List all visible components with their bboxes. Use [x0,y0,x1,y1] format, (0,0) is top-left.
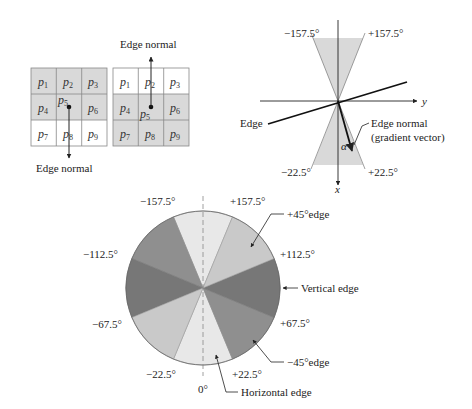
wheel-label-pos112: +112.5° [280,248,315,260]
x-axis-label: x [334,183,340,195]
wheel-label-pos157: +157.5° [230,195,265,207]
edge-direction-wheel: −157.5° +157.5° −112.5° +112.5° −67.5° +… [83,195,359,398]
cell-p2: p2 [144,75,155,90]
alpha-label: α [341,140,347,152]
horizontal-edge-label: Horizontal edge [241,386,312,398]
edge-normal-label-right: Edge normal [120,38,177,50]
minus45-edge-label: −45°edge [287,356,329,368]
cell-p3: p3 [169,75,180,90]
wheel-label-zero: 0° [198,383,208,395]
gradient-axes-diagram: −157.5° +157.5° −22.5° +22.5° x y Edge α… [240,20,445,195]
wheel-label-neg157: −157.5° [140,195,175,207]
edge-label: Edge [240,117,263,129]
edge-direction-figure: p1 p2 p3 p4 p5 p6 p7 p8 p9 Edge normal p… [0,0,472,409]
angle-label-pos22: +22.5° [368,166,398,178]
edge-normal-label: Edge normal [371,117,428,129]
angle-label-neg157: −157.5° [284,27,319,39]
angle-label-pos157: +157.5° [368,27,403,39]
vertical-edge-label: Vertical edge [301,282,359,294]
minus45-callout-arrow [253,340,284,362]
wheel-label-pos22: +22.5° [232,368,262,380]
right-neighborhood-grid: p1 p2 p3 p4 p5 p6 p7 p8 p9 Edge normal [113,38,189,146]
wheel-label-neg67: −67.5° [92,318,122,330]
wheel-label-pos67: +67.5° [280,317,310,329]
left-neighborhood-grid: p1 p2 p3 p4 p5 p6 p7 p8 p9 Edge normal [31,68,107,174]
plus45-edge-label: +45°edge [287,208,329,220]
wheel-label-neg22: −22.5° [146,368,176,380]
wheel-label-neg112: −112.5° [83,248,118,260]
edge-normal-label-left: Edge normal [36,162,93,174]
y-axis-label: y [421,95,427,107]
normal-callout-line [354,123,369,145]
angle-label-neg22: −22.5° [281,166,311,178]
cell-p1: p1 [119,75,130,90]
gradient-vector-label: (gradient vector) [371,131,445,144]
